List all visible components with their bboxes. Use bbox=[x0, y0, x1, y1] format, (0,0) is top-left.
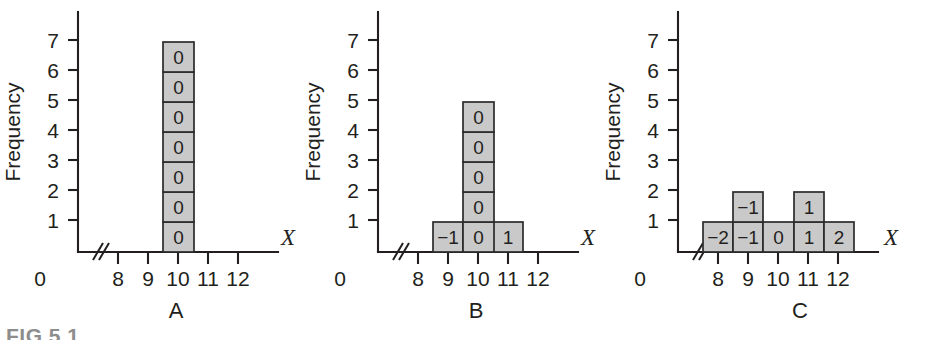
panel-label-b: B bbox=[469, 298, 484, 323]
y-tick-label-6: 6 bbox=[347, 59, 359, 82]
y-tick-label-2: 2 bbox=[347, 179, 359, 202]
panel-a-svg: 1 2 3 4 5 6 7 8 9 10 11 12 0 bbox=[0, 0, 300, 336]
x-tick-label-8: 8 bbox=[712, 267, 724, 290]
bar-cell-label: 0 bbox=[173, 197, 184, 218]
y-tick-label-7: 7 bbox=[647, 29, 659, 52]
histogram-panel-a: 1 2 3 4 5 6 7 8 9 10 11 12 0 bbox=[0, 0, 300, 336]
bar-cell-label: −2 bbox=[707, 227, 729, 248]
x-tick-label-10: 10 bbox=[166, 267, 189, 290]
y-tick-label-4: 4 bbox=[47, 119, 59, 142]
y-axis-title: Frequency bbox=[601, 82, 624, 182]
x-tick-label-8: 8 bbox=[112, 267, 124, 290]
y-tick-label-2: 2 bbox=[47, 179, 59, 202]
y-tick-label-6: 6 bbox=[647, 59, 659, 82]
y-tick-label-5: 5 bbox=[347, 89, 359, 112]
y-tick-label-7: 7 bbox=[347, 29, 359, 52]
bar-cell-label: 0 bbox=[173, 107, 184, 128]
origin-label: 0 bbox=[34, 267, 46, 290]
x-axis-title: X bbox=[280, 225, 296, 250]
bar-cell-label: 0 bbox=[173, 47, 184, 68]
x-axis-title: X bbox=[883, 225, 899, 250]
bar-cell-label: 0 bbox=[473, 227, 484, 248]
y-tick-label-7: 7 bbox=[47, 29, 59, 52]
x-tick-label-9: 9 bbox=[442, 267, 454, 290]
bar-cell-label: 0 bbox=[173, 137, 184, 158]
x-tick-label-11: 11 bbox=[497, 267, 519, 290]
origin-label: 0 bbox=[634, 267, 646, 290]
x-tick-label-11: 11 bbox=[797, 267, 819, 290]
x-tick-label-12: 12 bbox=[826, 267, 849, 290]
figure-caption: FIG 5.1 bbox=[6, 324, 80, 340]
bar-cell-label: 0 bbox=[473, 167, 484, 188]
x-tick-label-9: 9 bbox=[742, 267, 754, 290]
x-tick-label-9: 9 bbox=[142, 267, 154, 290]
y-tick-label-5: 5 bbox=[47, 89, 59, 112]
panel-c-bars: −2 −1 −1 0 1 1 2 bbox=[703, 192, 854, 252]
x-axis-title: X bbox=[580, 225, 596, 250]
panel-c-x-ticks: 8 9 10 11 12 0 bbox=[634, 252, 850, 290]
histogram-panel-c: 1 2 3 4 5 6 7 8 9 10 11 12 0 bbox=[600, 0, 931, 336]
panel-c-svg: 1 2 3 4 5 6 7 8 9 10 11 12 0 bbox=[600, 0, 931, 336]
y-axis-title: Frequency bbox=[301, 82, 324, 182]
panel-label-a: A bbox=[169, 298, 184, 323]
y-tick-label-1: 1 bbox=[347, 209, 359, 232]
y-tick-label-3: 3 bbox=[647, 149, 659, 172]
panel-c-y-ticks: 1 2 3 4 5 6 7 bbox=[647, 29, 678, 232]
y-tick-label-3: 3 bbox=[347, 149, 359, 172]
panel-label-c: C bbox=[792, 298, 808, 323]
bar-cell-label: 0 bbox=[473, 107, 484, 128]
origin-label: 0 bbox=[334, 267, 346, 290]
bar-cell-label: −1 bbox=[437, 227, 459, 248]
bar-cell-label: 0 bbox=[473, 137, 484, 158]
panel-b-svg: 1 2 3 4 5 6 7 8 9 10 11 12 0 bbox=[300, 0, 600, 336]
y-tick-label-6: 6 bbox=[47, 59, 59, 82]
bar-cell-label: 2 bbox=[834, 227, 845, 248]
x-tick-label-12: 12 bbox=[226, 267, 249, 290]
y-tick-label-3: 3 bbox=[47, 149, 59, 172]
x-tick-label-11: 11 bbox=[197, 267, 219, 290]
bar-cell-label: 0 bbox=[173, 77, 184, 98]
x-tick-label-10: 10 bbox=[766, 267, 789, 290]
y-tick-label-1: 1 bbox=[647, 209, 659, 232]
panel-a-bars: 0 0 0 0 0 0 0 bbox=[163, 42, 194, 252]
bar-cell-label: 0 bbox=[473, 197, 484, 218]
bar-cell-label: 0 bbox=[173, 227, 184, 248]
bar-cell-label: 1 bbox=[804, 227, 815, 248]
bar-cell-label: 0 bbox=[773, 227, 784, 248]
x-tick-label-10: 10 bbox=[466, 267, 489, 290]
panel-a-y-ticks: 1 2 3 4 5 6 7 bbox=[47, 29, 78, 232]
y-tick-label-1: 1 bbox=[47, 209, 59, 232]
y-tick-label-4: 4 bbox=[647, 119, 659, 142]
y-tick-label-2: 2 bbox=[647, 179, 659, 202]
y-tick-label-4: 4 bbox=[347, 119, 359, 142]
x-tick-label-8: 8 bbox=[412, 267, 424, 290]
y-tick-label-5: 5 bbox=[647, 89, 659, 112]
panel-a-x-ticks: 8 9 10 11 12 0 bbox=[34, 252, 250, 290]
panel-b-y-ticks: 1 2 3 4 5 6 7 bbox=[347, 29, 378, 232]
panel-b-bars: −1 1 0 0 0 0 0 bbox=[433, 102, 523, 252]
bar-cell-label: 0 bbox=[173, 167, 184, 188]
y-axis-title: Frequency bbox=[1, 82, 24, 182]
histogram-panel-b: 1 2 3 4 5 6 7 8 9 10 11 12 0 bbox=[300, 0, 600, 336]
bar-cell-label: −1 bbox=[737, 197, 759, 218]
x-tick-label-12: 12 bbox=[526, 267, 549, 290]
panel-b-x-ticks: 8 9 10 11 12 0 bbox=[334, 252, 550, 290]
bar-cell-label: −1 bbox=[737, 227, 759, 248]
bar-cell-label: 1 bbox=[503, 227, 514, 248]
bar-cell-label: 1 bbox=[804, 197, 815, 218]
